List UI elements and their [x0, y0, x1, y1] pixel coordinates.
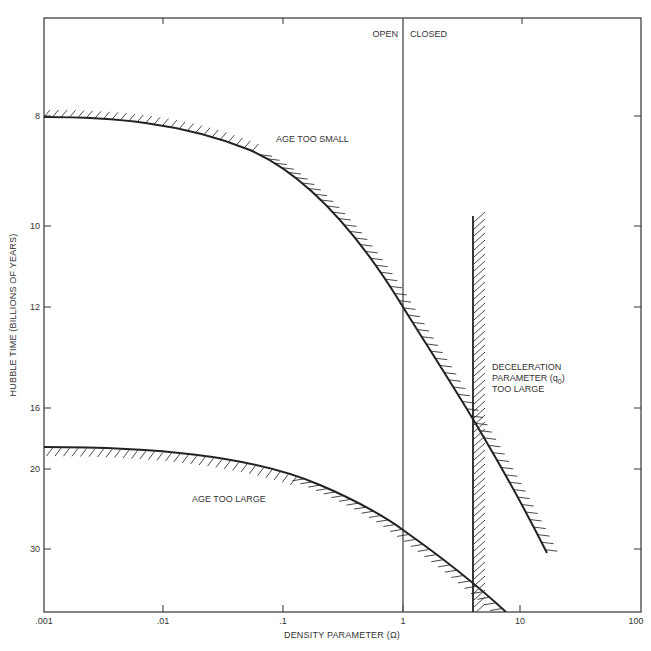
y-tick-12: 12: [30, 302, 40, 312]
x-tick-1: 1: [400, 616, 405, 626]
right-axis-ticks: [634, 116, 641, 549]
y-axis-title: HUBBLE TIME (BILLIONS OF YEARS): [8, 234, 18, 397]
x-tick-0.1: .1: [279, 616, 287, 626]
age-too-small-label: AGE TOO SMALL: [276, 134, 349, 144]
y-tick-labels: 8 10 12 16 20 30: [30, 111, 40, 554]
y-tick-20: 20: [30, 464, 40, 474]
deceleration-hatching: [474, 212, 485, 614]
x-tick-10: 10: [515, 616, 525, 626]
top-axis-ticks: [163, 18, 522, 24]
deceleration-label: DECELERATION PARAMETER (q0) TOO LARGE: [492, 362, 565, 394]
y-tick-16: 16: [30, 403, 40, 413]
x-tick-labels: .001 .01 .1 1 10 100: [35, 616, 643, 626]
chart: 8 10 12 16 20 30 .001 .01 .1 1 10 100 DE…: [0, 0, 651, 651]
x-axis-title: DENSITY PARAMETER (Ω): [284, 630, 400, 640]
deceleration-label-line3: TOO LARGE: [492, 384, 544, 394]
age-too-large-hatching: [38, 448, 502, 611]
open-label: OPEN: [372, 29, 398, 39]
y-tick-10: 10: [30, 221, 40, 231]
deceleration-label-line1: DECELERATION: [492, 362, 561, 372]
age-too-small-curve: [44, 117, 547, 553]
age-too-large-curve: [44, 447, 506, 612]
age-too-large-label: AGE TOO LARGE: [192, 494, 266, 504]
x-tick-100: 100: [628, 616, 643, 626]
left-axis-ticks: [44, 116, 51, 549]
y-tick-30: 30: [30, 544, 40, 554]
x-tick-0.001: .001: [35, 616, 53, 626]
age-too-small-hatching: [44, 110, 557, 551]
plot-frame: [44, 18, 641, 612]
y-tick-8: 8: [35, 111, 40, 121]
closed-label: CLOSED: [410, 29, 448, 39]
bottom-axis-ticks: [163, 605, 520, 612]
x-tick-0.01: .01: [157, 616, 170, 626]
